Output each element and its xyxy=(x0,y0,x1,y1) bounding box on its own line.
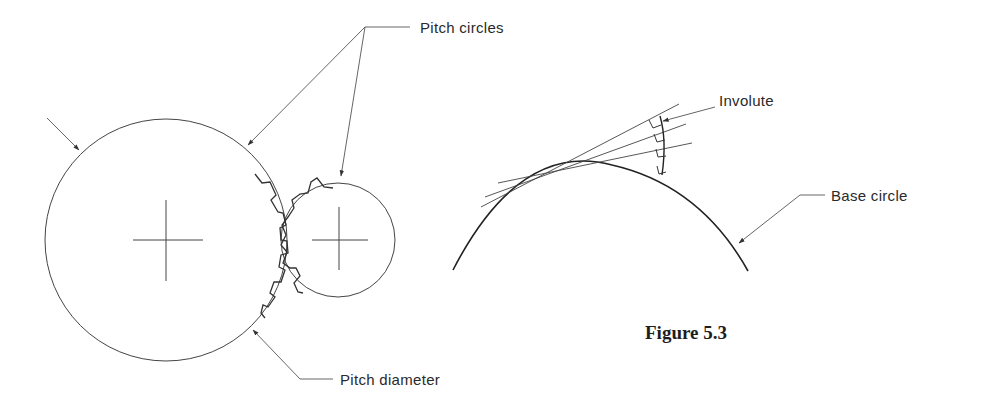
base-circle-arc xyxy=(453,161,748,271)
label-pitch-diameter: Pitch diameter xyxy=(340,371,440,388)
involute-leader xyxy=(663,107,715,121)
involute-curve xyxy=(649,116,666,175)
label-base-circle: Base circle xyxy=(831,187,908,204)
base-circle-leader xyxy=(739,195,825,243)
label-pitch-circles: Pitch circles xyxy=(420,19,504,36)
figure-caption: Figure 5.3 xyxy=(645,322,727,344)
label-involute: Involute xyxy=(719,92,774,109)
large-gear-teeth xyxy=(255,174,288,318)
large-pitch-circle xyxy=(45,119,287,361)
pitch-diameter-leader xyxy=(253,330,333,379)
small-gear-teeth xyxy=(281,178,333,293)
small-pitch-circle xyxy=(281,183,395,297)
leader-arrow-left xyxy=(47,118,79,150)
pitch-circles-leader xyxy=(248,27,410,176)
